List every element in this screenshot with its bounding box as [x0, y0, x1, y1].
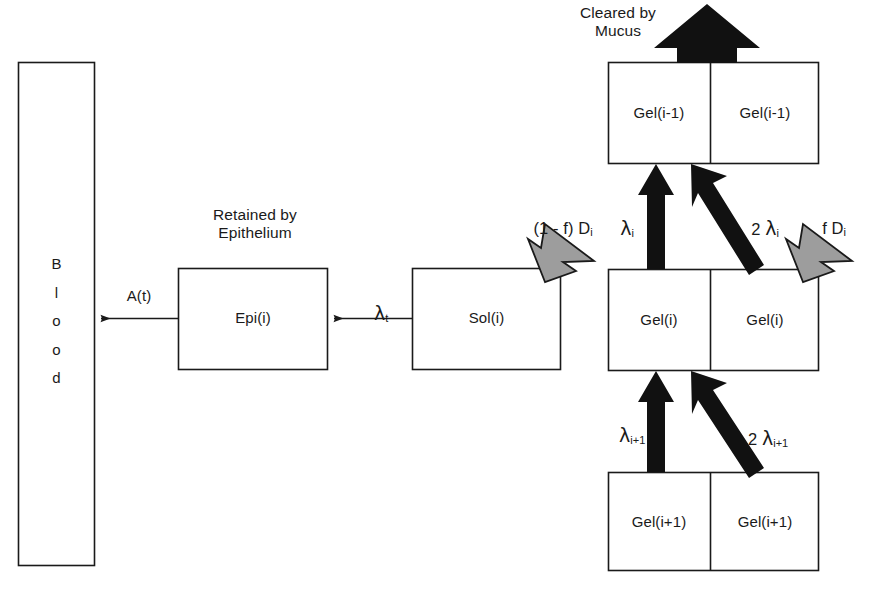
- gel-above-right-label: Gel(i-1): [711, 105, 819, 122]
- lambda-glyph: λ: [374, 302, 385, 324]
- two-lambda-i-subscript: i: [777, 227, 779, 239]
- lambda-glyph: λ: [619, 424, 630, 446]
- lambda-subscript: t: [385, 312, 388, 324]
- gel-current-left-label: Gel(i): [608, 312, 710, 329]
- lambda-glyph: λ: [620, 217, 631, 239]
- diagram-canvas: B l o o d Epi(i) Sol(i) Gel(i-1) Gel(i-1…: [0, 0, 870, 592]
- two-lambda-ip1-coefficient: 2: [748, 430, 762, 448]
- lambda-ip1-subscript: i+1: [630, 434, 645, 446]
- two-lambda-i-label: 2 λi: [724, 200, 788, 258]
- gel-below-right-label: Gel(i+1): [711, 514, 819, 531]
- gel-above-left-label: Gel(i-1): [608, 105, 710, 122]
- lambda-ip1-label: λi+1: [588, 407, 658, 465]
- retained-by-epithelium-caption: Retained byEpithelium: [188, 206, 322, 243]
- deposition-sol-expression: (1 - f) D: [533, 219, 590, 237]
- sol-to-epi-flow-label: λt: [336, 285, 408, 343]
- two-lambda-i-coefficient: 2: [751, 220, 765, 238]
- deposition-gel-expression: f D: [822, 219, 843, 237]
- lambda-glyph: λ: [765, 217, 776, 239]
- two-lambda-ip1-subscript: i+1: [773, 437, 788, 449]
- absorption-flow-label: A(t): [104, 288, 174, 305]
- deposition-to-gel-label: f Di: [790, 201, 860, 257]
- lambda-i-subscript: i: [632, 227, 634, 239]
- epi-box-label: Epi(i): [178, 310, 328, 327]
- blood-letter: l: [18, 279, 95, 308]
- blood-letter: B: [18, 250, 95, 279]
- gel-current-right-label: Gel(i): [711, 312, 819, 329]
- lambda-i-label: λi: [590, 200, 646, 258]
- blood-letter: o: [18, 307, 95, 336]
- blood-box-label: B l o o d: [18, 250, 95, 393]
- sol-box-label: Sol(i): [412, 310, 561, 327]
- deposition-gel-subscript: i: [844, 226, 846, 238]
- cleared-by-mucus-caption: Cleared byMucus: [552, 4, 684, 41]
- lambda-glyph: λ: [762, 427, 773, 449]
- gel-below-left-label: Gel(i+1): [608, 514, 710, 531]
- two-lambda-ip1-label: 2 λi+1: [716, 410, 802, 468]
- blood-letter: o: [18, 336, 95, 365]
- blood-letter: d: [18, 364, 95, 393]
